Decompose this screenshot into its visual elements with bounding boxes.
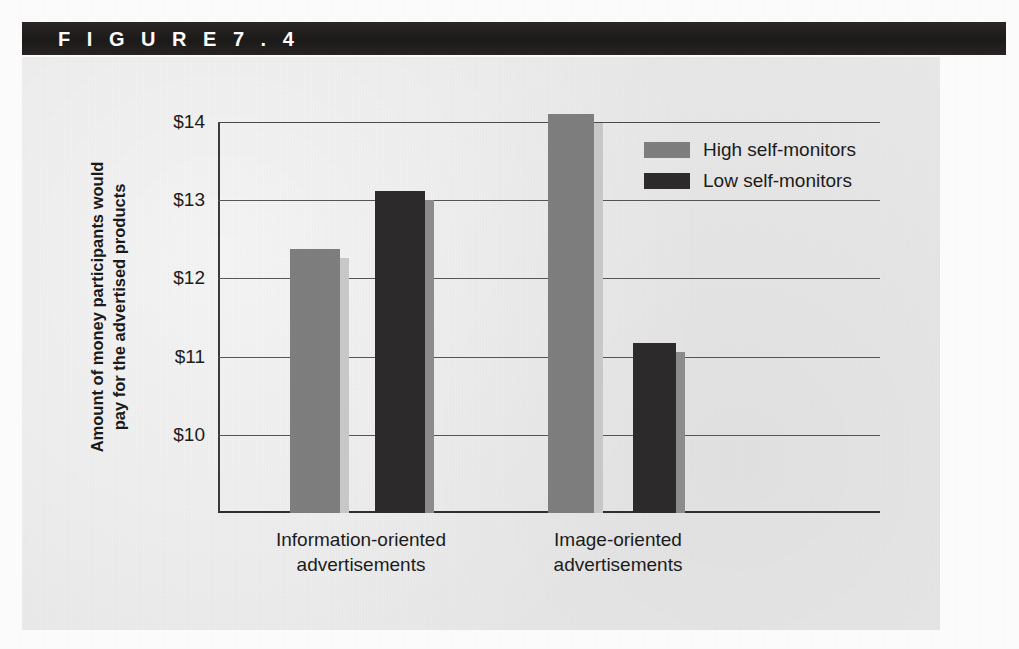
figure-header-band: F I G U R E 7 . 4 bbox=[22, 22, 1006, 55]
bar-face bbox=[290, 249, 340, 513]
y-tick-label-13: $13 bbox=[135, 189, 205, 211]
y-tick-label-12: $12 bbox=[135, 267, 205, 289]
figure-root: F I G U R E 7 . 4 Amount of money partic… bbox=[0, 0, 1019, 649]
legend: High self-monitors Low self-monitors bbox=[644, 134, 856, 196]
bar-side-shadow bbox=[594, 123, 603, 513]
bar-side-shadow bbox=[425, 200, 434, 513]
bar-face bbox=[548, 114, 594, 513]
bar-side-shadow bbox=[340, 258, 349, 513]
bar-image-oriented-advertisements-high-self-monitors bbox=[548, 114, 594, 513]
bar-information-oriented-advertisements-low-self-monitors bbox=[375, 191, 425, 513]
legend-label-high-self-monitors: High self-monitors bbox=[703, 139, 856, 161]
legend-swatch-low-self-monitors bbox=[644, 173, 690, 189]
legend-item-low-self-monitors: Low self-monitors bbox=[644, 165, 856, 196]
y-axis-title-line-2: pay for the advertised products bbox=[108, 97, 130, 517]
y-axis-title: Amount of money participants would pay f… bbox=[86, 97, 138, 517]
bar-face bbox=[633, 343, 676, 513]
category-label-line-2: advertisements bbox=[468, 552, 768, 577]
category-label-line-2: advertisements bbox=[211, 552, 511, 577]
bar-face bbox=[375, 191, 425, 513]
category-label-image-oriented: Image-oriented advertisements bbox=[468, 527, 768, 577]
category-label-line-1: Image-oriented bbox=[468, 527, 768, 552]
y-axis-title-line-1: Amount of money participants would bbox=[86, 97, 108, 517]
figure-number-label: F I G U R E 7 . 4 bbox=[58, 27, 299, 50]
legend-item-high-self-monitors: High self-monitors bbox=[644, 134, 856, 165]
y-tick-label-14: $14 bbox=[135, 111, 205, 133]
y-tick-label-11: $11 bbox=[135, 346, 205, 368]
bar-image-oriented-advertisements-low-self-monitors bbox=[633, 343, 676, 513]
bar-side-shadow bbox=[676, 352, 685, 513]
y-tick-label-10: $10 bbox=[135, 424, 205, 446]
category-label-information-oriented: Information-oriented advertisements bbox=[211, 527, 511, 577]
bar-information-oriented-advertisements-high-self-monitors bbox=[290, 249, 340, 513]
legend-label-low-self-monitors: Low self-monitors bbox=[703, 170, 852, 192]
legend-swatch-high-self-monitors bbox=[644, 142, 690, 158]
category-label-line-1: Information-oriented bbox=[211, 527, 511, 552]
